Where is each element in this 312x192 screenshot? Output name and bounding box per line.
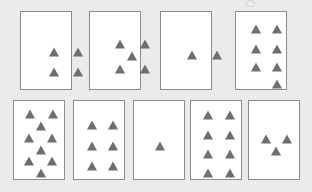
card-5[interactable] bbox=[13, 100, 65, 180]
triangle-icon bbox=[203, 111, 213, 120]
triangle-icon bbox=[36, 146, 46, 155]
smudge-artifact-icon bbox=[246, 0, 255, 7]
card-1[interactable] bbox=[20, 11, 72, 90]
triangle-group bbox=[161, 12, 211, 89]
triangle-group bbox=[191, 101, 241, 179]
triangle-icon bbox=[73, 48, 83, 57]
triangle-icon bbox=[225, 150, 235, 159]
triangle-icon bbox=[251, 45, 261, 54]
triangle-icon bbox=[187, 51, 197, 60]
triangle-icon bbox=[48, 110, 58, 119]
triangle-icon bbox=[108, 142, 118, 151]
triangle-icon bbox=[127, 52, 137, 61]
card-6[interactable] bbox=[73, 100, 125, 180]
card-9[interactable] bbox=[248, 100, 300, 180]
triangle-icon bbox=[272, 45, 282, 54]
triangle-icon bbox=[36, 122, 46, 131]
triangle-icon bbox=[272, 80, 282, 89]
triangle-icon bbox=[251, 25, 261, 34]
card-3[interactable] bbox=[160, 11, 212, 90]
triangle-icon bbox=[203, 131, 213, 140]
figure-canvas bbox=[0, 0, 312, 192]
triangle-icon bbox=[261, 135, 271, 144]
triangle-icon bbox=[271, 147, 281, 156]
triangle-group bbox=[236, 12, 286, 89]
triangle-group bbox=[21, 12, 71, 89]
triangle-icon bbox=[108, 121, 118, 130]
triangle-icon bbox=[87, 142, 97, 151]
triangle-icon bbox=[212, 51, 222, 60]
triangle-icon bbox=[108, 162, 118, 171]
card-8[interactable] bbox=[190, 100, 242, 180]
triangle-icon bbox=[24, 134, 34, 143]
triangle-icon bbox=[87, 121, 97, 130]
triangle-icon bbox=[24, 157, 34, 166]
triangle-icon bbox=[203, 150, 213, 159]
triangle-group bbox=[134, 101, 184, 179]
triangle-icon bbox=[36, 169, 46, 178]
triangle-icon bbox=[155, 142, 165, 151]
triangle-icon bbox=[87, 162, 97, 171]
triangle-icon bbox=[47, 157, 57, 166]
triangle-icon bbox=[282, 135, 292, 144]
triangle-icon bbox=[203, 169, 213, 178]
triangle-icon bbox=[49, 48, 59, 57]
triangle-group bbox=[249, 101, 299, 179]
triangle-icon bbox=[140, 65, 150, 74]
triangle-group bbox=[74, 101, 124, 179]
card-7[interactable] bbox=[133, 100, 185, 180]
triangle-icon bbox=[49, 68, 59, 77]
triangle-group bbox=[14, 101, 64, 179]
triangle-icon bbox=[272, 63, 282, 72]
triangle-icon bbox=[225, 131, 235, 140]
card-4[interactable] bbox=[235, 11, 287, 90]
triangle-icon bbox=[225, 169, 235, 178]
triangle-icon bbox=[25, 110, 35, 119]
triangle-icon bbox=[115, 40, 125, 49]
triangle-icon bbox=[47, 134, 57, 143]
triangle-group bbox=[90, 12, 140, 89]
triangle-icon bbox=[115, 65, 125, 74]
triangle-icon bbox=[73, 68, 83, 77]
triangle-icon bbox=[225, 111, 235, 120]
triangle-icon bbox=[272, 25, 282, 34]
triangle-icon bbox=[140, 40, 150, 49]
card-2[interactable] bbox=[89, 11, 141, 90]
triangle-icon bbox=[251, 63, 261, 72]
